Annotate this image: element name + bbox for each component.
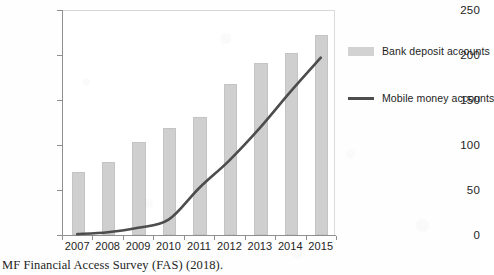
line-swatch-icon [348,97,374,100]
x-axis-tick-label: 2013 [243,240,277,252]
y-axis-tick-label: 250 [428,4,480,16]
y-axis-tick-label: 100 [428,139,480,151]
x-axis-tick-mark [275,236,276,240]
mobile-money-line-path [77,58,321,234]
x-axis-tick-mark [62,236,63,240]
legend-label-mobile-money-accounts: Mobile money accounts [382,92,494,104]
x-axis-tick-label: 2007 [60,240,94,252]
x-axis-tick-mark [336,236,337,240]
source-caption: MF Financial Access Survey (FAS) (2018). [2,258,223,273]
x-axis-tick-label: 2010 [152,240,186,252]
x-axis-tick-mark [245,236,246,240]
x-axis-tick-mark [92,236,93,240]
x-axis-tick-label: 2015 [304,240,338,252]
legend-item-mobile-money-accounts: Mobile money accounts [348,91,478,105]
x-axis-tick-mark [153,236,154,240]
y-axis-tick-label: 0 [428,229,480,241]
x-axis-tick-mark [306,236,307,240]
bar-swatch-icon [348,47,374,56]
x-axis-tick-label: 2009 [121,240,155,252]
chart-legend: Bank deposit accounts Mobile money accou… [348,44,478,138]
x-axis-tick-label: 2014 [273,240,307,252]
legend-label-bank-deposit-accounts: Bank deposit accounts [382,45,490,57]
x-axis-tick-mark [123,236,124,240]
line-series-mobile-money-accounts [62,10,336,236]
x-axis-tick-label: 2011 [182,240,216,252]
x-axis-tick-mark [214,236,215,240]
y-axis-tick-label: 50 [428,184,480,196]
x-axis-tick-mark [184,236,185,240]
x-axis-tick-label: 2012 [212,240,246,252]
legend-item-bank-deposit-accounts: Bank deposit accounts [348,44,478,58]
x-axis-tick-label: 2008 [91,240,125,252]
